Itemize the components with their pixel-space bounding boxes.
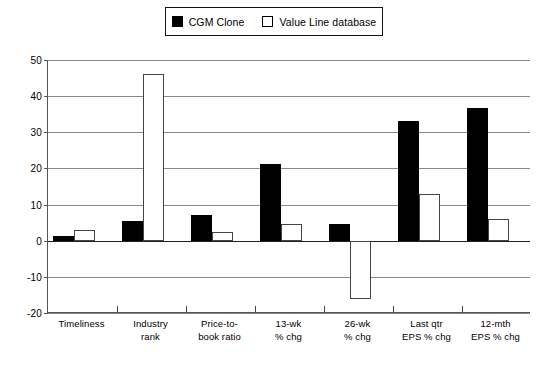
legend-item-value-line-database: Value Line database (262, 16, 376, 28)
y-tick-mark--20 (44, 313, 48, 314)
bar-cgm-clone-0 (53, 236, 74, 241)
x-axis: TimelinessIndustryrankPrice-to-book rati… (47, 318, 530, 364)
x-tick-label-5: Last qtrEPS % chg (392, 318, 461, 343)
bar-value-line-database-3 (281, 224, 302, 240)
bar-value-line-database-4 (350, 241, 371, 299)
x-tick-label-6: 12-mthEPS % chg (461, 318, 530, 343)
x-tick-label-2: Price-to-book ratio (185, 318, 254, 343)
x-tick-label-line: EPS % chg (461, 331, 530, 344)
x-tick-label-line: % chg (254, 331, 323, 344)
x-tick-label-line: % chg (323, 331, 392, 344)
x-tick-label-1: Industryrank (116, 318, 185, 343)
category-separator (462, 306, 463, 313)
bar-cgm-clone-2 (191, 215, 212, 240)
x-tick-label-line: book ratio (185, 331, 254, 344)
x-tick-label-line: 13-wk (254, 318, 323, 331)
bar-cgm-clone-5 (398, 121, 419, 241)
y-tick-label-0: 0 (8, 235, 42, 246)
bar-value-line-database-6 (488, 219, 509, 241)
x-tick-label-3: 13-wk% chg (254, 318, 323, 343)
bar-cgm-clone-3 (260, 164, 281, 241)
x-tick-label-line: 26-wk (323, 318, 392, 331)
bar-value-line-database-1 (143, 74, 164, 240)
x-tick-label-line: Last qtr (392, 318, 461, 331)
legend-label-value-line-database: Value Line database (279, 16, 376, 28)
bar-cgm-clone-6 (467, 108, 488, 240)
category-separator (393, 306, 394, 313)
y-tick-label-20: 20 (8, 163, 42, 174)
x-tick-label-line: EPS % chg (392, 331, 461, 344)
y-tick-label--10: -10 (8, 271, 42, 282)
bar-value-line-database-5 (419, 194, 440, 241)
y-tick-label-50: 50 (8, 55, 42, 66)
y-tick-label-30: 30 (8, 127, 42, 138)
y-tick-label-40: 40 (8, 91, 42, 102)
x-tick-label-0: Timeliness (47, 318, 116, 331)
bar-chart: CGM Clone Value Line database 5040302010… (0, 0, 548, 368)
bar-value-line-database-0 (74, 230, 95, 241)
x-tick-label-line: Price-to- (185, 318, 254, 331)
x-tick-label-4: 26-wk% chg (323, 318, 392, 343)
y-tick-label-10: 10 (8, 199, 42, 210)
category-separator (186, 306, 187, 313)
legend-item-cgm-clone: CGM Clone (172, 16, 245, 28)
category-separator (117, 306, 118, 313)
category-separator (324, 306, 325, 313)
x-tick-label-line: Industry (116, 318, 185, 331)
y-axis: 50403020100-10-20 (0, 60, 42, 313)
bars-layer (48, 60, 530, 312)
open-square-icon (262, 16, 273, 27)
bar-value-line-database-2 (212, 232, 233, 241)
bar-cgm-clone-1 (122, 221, 143, 241)
plot-area (47, 60, 530, 313)
category-separator (255, 306, 256, 313)
chart-legend: CGM Clone Value Line database (165, 7, 383, 36)
x-tick-label-line: rank (116, 331, 185, 344)
y-tick-label--20: -20 (8, 308, 42, 319)
filled-square-icon (172, 16, 183, 27)
bar-cgm-clone-4 (329, 224, 350, 240)
gridline--20 (48, 313, 530, 314)
x-tick-label-line: 12-mth (461, 318, 530, 331)
x-tick-label-line: Timeliness (47, 318, 116, 331)
legend-label-cgm-clone: CGM Clone (189, 16, 245, 28)
